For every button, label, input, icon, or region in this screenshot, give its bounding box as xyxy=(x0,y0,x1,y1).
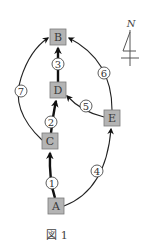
edge-label-6: 6 xyxy=(98,67,110,79)
svg-text:N: N xyxy=(126,18,137,29)
node-e: E xyxy=(104,110,120,126)
svg-text:C: C xyxy=(46,135,54,148)
svg-text:1: 1 xyxy=(49,178,55,189)
node-d: D xyxy=(50,82,66,98)
svg-text:7: 7 xyxy=(18,86,24,97)
edge-label-5: 5 xyxy=(80,100,92,112)
svg-text:4: 4 xyxy=(94,166,100,177)
edge-label-7: 7 xyxy=(15,85,27,97)
node-c: C xyxy=(42,133,58,149)
edge-4 xyxy=(64,129,111,206)
edge-label-1: 1 xyxy=(46,177,58,189)
svg-text:D: D xyxy=(54,84,63,97)
svg-text:3: 3 xyxy=(55,59,61,70)
svg-text:E: E xyxy=(108,112,116,125)
svg-text:A: A xyxy=(51,200,61,213)
node-b: B xyxy=(50,29,66,45)
svg-text:2: 2 xyxy=(48,117,54,128)
edge-label-4: 4 xyxy=(91,165,103,177)
svg-text:6: 6 xyxy=(101,68,107,79)
figure-caption: 図 1 xyxy=(46,229,68,242)
edge-label-2: 2 xyxy=(45,116,57,128)
edge-label-3: 3 xyxy=(52,58,64,70)
route-diagram: 1 2 3 4 5 6 7 B xyxy=(0,0,148,251)
node-a: A xyxy=(48,198,64,214)
edge-labels: 1 2 3 4 5 6 7 xyxy=(15,58,110,189)
edges xyxy=(18,38,112,206)
svg-text:5: 5 xyxy=(83,101,89,112)
compass-north-icon: N xyxy=(121,18,139,66)
edge-1 xyxy=(50,153,55,198)
svg-text:B: B xyxy=(54,31,62,44)
